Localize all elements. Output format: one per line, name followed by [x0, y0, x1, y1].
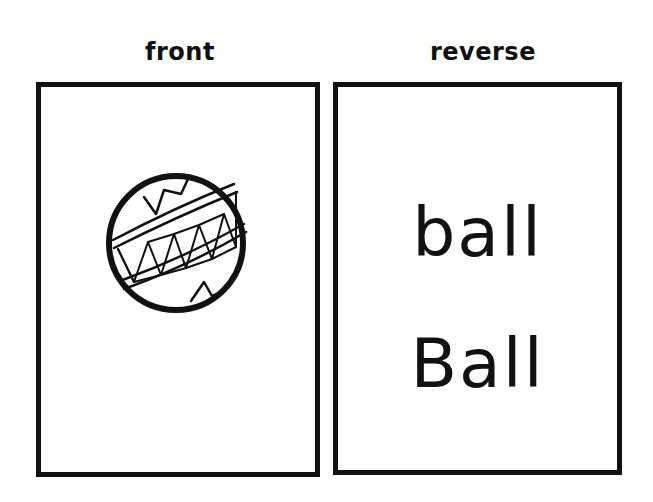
- lowercase-word: ball: [338, 199, 617, 267]
- front-label: front: [140, 38, 220, 66]
- front-card: [36, 82, 320, 477]
- reverse-card: ball Ball: [333, 82, 622, 475]
- capitalized-word: Ball: [338, 330, 617, 398]
- reverse-label: reverse: [430, 38, 530, 66]
- ball-icon: [36, 82, 320, 477]
